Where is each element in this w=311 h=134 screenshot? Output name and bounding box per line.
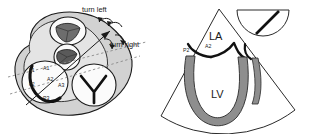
chamber-label-la: LA: [209, 30, 223, 42]
left-panel-valve-plane: A1 A2 A3 P1 P2 P3: [0, 0, 155, 134]
aortic-valve: [50, 17, 86, 45]
echo-sector-svg: LA P2 A2 LV: [155, 0, 311, 134]
figure-root: A1 A2 A3 P1 P2 P3: [0, 0, 311, 134]
right-panel-echo-view: LA P2 A2 LV: [155, 0, 311, 134]
scallop-label-a3: A3: [58, 82, 64, 88]
scallop-label-a1: A1: [43, 65, 49, 71]
tricuspid-valve: [72, 64, 116, 106]
echo-label-a2: A2: [205, 43, 211, 49]
scallop-label-p3: P3: [43, 95, 49, 101]
transducer-orientation-icon: [237, 10, 289, 36]
turn-right-label: turn right: [110, 40, 139, 49]
chamber-label-lv: LV: [211, 88, 224, 100]
transducer-semicircle: [237, 10, 289, 36]
turn-left-label: turn left: [82, 5, 107, 14]
valve-plane-svg: A1 A2 A3 P1 P2 P3: [0, 0, 155, 134]
echo-label-p2: P2: [183, 47, 189, 53]
scallop-label-p2: P2: [29, 82, 35, 87]
